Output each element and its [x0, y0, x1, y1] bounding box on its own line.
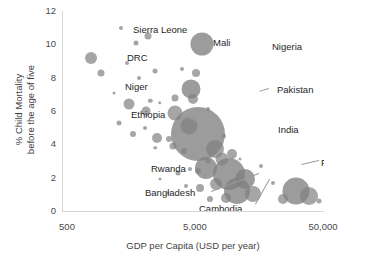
y-tick: 12	[30, 11, 56, 12]
data-bubble	[271, 181, 275, 185]
annotation-label: Rwanda	[151, 163, 186, 174]
data-bubble	[238, 158, 241, 161]
x-axis-title: GDP per Capita (USD per year)	[62, 240, 324, 251]
x-tick-label: 50,000	[308, 221, 337, 232]
y-tick: 2	[30, 178, 56, 179]
data-bubble	[196, 184, 204, 192]
plot-area: Sierra LeoneMaliNigeriaDRCNigerPakistanE…	[62, 11, 324, 212]
annotation-label: Ethiopia	[131, 109, 165, 120]
data-bubble	[182, 80, 201, 99]
y-axis-title-line1: % Child Mortality	[13, 20, 25, 200]
data-bubble	[195, 157, 217, 179]
data-bubble	[227, 149, 237, 159]
data-bubble	[137, 76, 141, 80]
annotation-label: Philippines	[321, 157, 324, 168]
data-bubble	[259, 164, 263, 168]
annotation-label: Nigeria	[272, 41, 302, 52]
data-bubble	[158, 178, 161, 181]
data-bubble	[148, 99, 152, 103]
data-bubble	[282, 178, 309, 205]
data-bubble	[278, 194, 288, 204]
data-bubble	[191, 33, 214, 56]
x-tick-label: 5,000	[183, 221, 207, 232]
data-bubble	[171, 94, 178, 101]
data-bubble	[119, 26, 123, 30]
y-tick-label: 4	[30, 138, 56, 149]
data-bubble	[207, 196, 213, 202]
y-tick: 10	[30, 44, 56, 45]
data-bubble	[116, 120, 121, 125]
data-bubble	[192, 69, 200, 77]
data-bubble	[317, 199, 322, 204]
y-tick: 6	[30, 111, 56, 112]
y-tick: 4	[30, 144, 56, 145]
annotation-leader-line	[179, 114, 199, 122]
annotation-label: Cambodia	[199, 203, 242, 212]
data-bubble	[134, 40, 139, 45]
data-bubble	[221, 193, 231, 203]
data-bubble	[97, 69, 104, 76]
x-tick-label: 500	[59, 221, 75, 232]
annotation-leader-line	[259, 88, 269, 92]
data-bubble	[205, 159, 210, 164]
y-tick: 8	[30, 78, 56, 79]
annotation-label: Niger	[125, 81, 148, 92]
annotation-label: Pakistan	[277, 84, 313, 95]
annotation-leader-line	[301, 160, 319, 165]
data-bubble	[153, 69, 158, 74]
y-tick-label: 6	[30, 105, 56, 116]
annotation-leader-line	[255, 179, 270, 204]
annotation-leader-line	[211, 173, 259, 192]
data-bubble	[130, 131, 136, 137]
annotation-label: Sierra Leone	[133, 24, 187, 35]
data-bubble	[300, 187, 318, 205]
annotation-label: India	[278, 124, 299, 135]
data-bubble	[152, 133, 162, 143]
data-bubble	[166, 136, 172, 142]
data-bubble	[216, 153, 229, 166]
y-tick-label: 10	[30, 38, 56, 49]
data-bubble	[85, 52, 97, 64]
data-bubble	[206, 140, 224, 158]
annotation-label: Mali	[213, 37, 230, 48]
y-tick-label: 0	[30, 205, 56, 216]
data-bubble	[169, 143, 176, 150]
data-bubble	[167, 105, 182, 120]
annotation-label: Bangladesh	[145, 187, 195, 198]
data-bubble	[113, 91, 116, 94]
data-bubble	[181, 148, 187, 154]
annotation-label: DRC	[127, 52, 148, 63]
data-bubble	[180, 67, 184, 71]
y-tick-label: 2	[30, 172, 56, 183]
bubble-chart: % Child Mortality before the age of five…	[0, 0, 368, 261]
data-bubble	[158, 101, 162, 105]
data-bubble	[245, 186, 261, 202]
data-bubble	[195, 168, 201, 174]
data-bubble	[206, 107, 210, 111]
data-bubble	[188, 94, 198, 104]
data-bubble	[153, 146, 157, 150]
data-bubble	[143, 126, 147, 130]
data-bubble	[222, 134, 226, 138]
y-tick: 0	[30, 211, 56, 212]
data-bubble	[188, 167, 192, 171]
y-tick-label: 12	[30, 5, 56, 16]
y-tick-label: 8	[30, 72, 56, 83]
data-bubble	[213, 158, 245, 190]
